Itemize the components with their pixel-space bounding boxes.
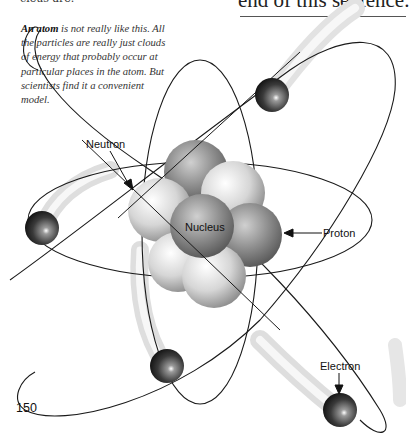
electron-particle — [255, 78, 289, 112]
page-number: 150 — [16, 401, 37, 415]
electron-arrow-icon — [335, 385, 343, 394]
electron-particle — [150, 349, 184, 383]
neutron-arrow-icon — [124, 179, 133, 190]
label-nucleus: Nucleus — [185, 221, 225, 233]
electron-particle — [323, 393, 357, 427]
label-proton: Proton — [323, 227, 355, 239]
label-electron: Electron — [320, 360, 360, 372]
electron-particle — [25, 211, 59, 245]
label-neutron: Neutron — [86, 138, 125, 150]
proton-arrow-icon — [284, 229, 293, 237]
